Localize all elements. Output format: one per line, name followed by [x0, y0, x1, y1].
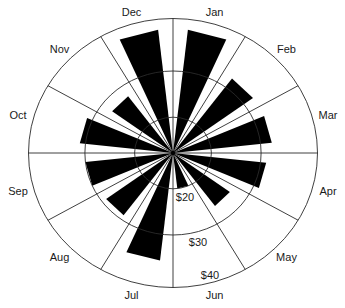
month-label-sep: Sep [8, 185, 28, 197]
month-label-mar: Mar [319, 109, 338, 121]
month-label-feb: Feb [277, 43, 296, 55]
month-label-aug: Aug [50, 251, 70, 263]
polar-bar-chart: JanFebMarAprMayJunJulAugSepOctNovDec $20… [0, 0, 345, 308]
chart-grid [29, 19, 318, 288]
chart-canvas: JanFebMarAprMayJunJulAugSepOctNovDec $20… [0, 0, 345, 308]
month-label-nov: Nov [50, 43, 70, 55]
radial-tick-labels: $20$30$40 [176, 191, 219, 281]
data-wedges [80, 30, 272, 261]
month-label-may: May [276, 251, 297, 263]
tick-label-40: $40 [201, 269, 219, 281]
month-label-jun: Jun [206, 289, 224, 301]
month-label-jul: Jul [124, 289, 138, 301]
month-label-apr: Apr [319, 185, 336, 197]
tick-label-30: $30 [189, 236, 207, 248]
month-label-jan: Jan [206, 6, 224, 18]
month-label-oct: Oct [9, 109, 26, 121]
tick-label-20: $20 [176, 191, 194, 203]
center-dot [171, 151, 175, 155]
month-label-dec: Dec [122, 6, 142, 18]
